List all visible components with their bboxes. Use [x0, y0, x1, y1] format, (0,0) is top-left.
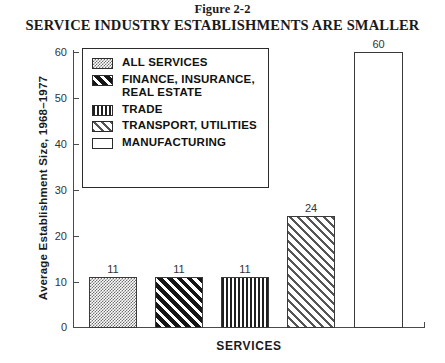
y-tick-30	[74, 190, 79, 191]
page-title: SERVICE INDUSTRY ESTABLISHMENTS ARE SMAL…	[0, 17, 445, 34]
bar-value-transport-utilities: 24	[287, 202, 335, 214]
y-axis-title: Average Establishment Size, 1968–1977	[37, 53, 49, 323]
legend-swatch-vertical-hatch-icon	[92, 105, 113, 116]
legend-label-all-services: ALL SERVICES	[122, 56, 208, 70]
y-axis-line	[73, 50, 74, 328]
legend-item-trade: TRADE	[92, 103, 268, 117]
y-tick-40	[74, 144, 79, 145]
y-tick-50	[74, 98, 79, 99]
bar-manufacturing	[354, 52, 403, 328]
x-axis-end-tick	[424, 322, 425, 328]
figure-number: Figure 2-2	[0, 2, 445, 17]
legend-swatch-plain-white-icon	[92, 138, 113, 149]
legend-label-manufacturing: MANUFACTURING	[122, 136, 226, 150]
legend-label-trade: TRADE	[122, 103, 163, 117]
bar-value-manufacturing: 60	[354, 38, 403, 50]
x-axis-title: SERVICES	[73, 339, 425, 353]
bar-transport-utilities	[287, 216, 335, 328]
chart-legend: ALL SERVICES FINANCE, INSURANCE, REAL ES…	[82, 48, 269, 188]
legend-swatch-checkerboard-dots-icon	[92, 58, 113, 69]
bar-trade	[221, 277, 269, 328]
legend-item-all-services: ALL SERVICES	[92, 56, 268, 70]
bar-value-trade: 11	[221, 263, 269, 275]
bar-value-all-services: 11	[89, 263, 137, 275]
y-tick-60	[74, 52, 79, 53]
legend-item-transport-utilities: TRANSPORT, UTILITIES	[92, 119, 268, 133]
y-tick-20	[74, 236, 79, 237]
y-tick-10	[74, 282, 79, 283]
figure-container: Figure 2-2 SERVICE INDUSTRY ESTABLISHMEN…	[0, 0, 445, 363]
chart-title-block: Figure 2-2 SERVICE INDUSTRY ESTABLISHMEN…	[0, 2, 445, 34]
legend-swatch-diagonal-heavy-icon	[92, 75, 113, 86]
y-tick-label-0: 0	[27, 322, 67, 333]
bar-all-services	[89, 277, 137, 328]
legend-item-manufacturing: MANUFACTURING	[92, 136, 268, 150]
legend-swatch-diagonal-light-icon	[92, 121, 113, 132]
legend-item-finance-insurance-real-estate: FINANCE, INSURANCE, REAL ESTATE	[92, 73, 268, 100]
legend-label-finance-insurance-real-estate: FINANCE, INSURANCE, REAL ESTATE	[122, 73, 262, 100]
legend-label-transport-utilities: TRANSPORT, UTILITIES	[122, 119, 257, 133]
bar-finance-insurance-real-estate	[155, 277, 203, 328]
bar-value-finance-insurance-real-estate: 11	[155, 263, 203, 275]
